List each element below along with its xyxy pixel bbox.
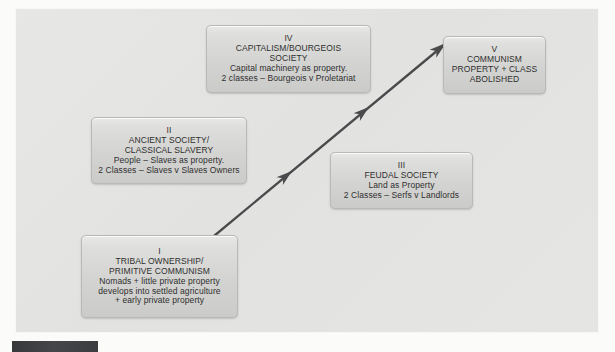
accent-bar bbox=[12, 341, 98, 352]
node-communism-title-line-3: ABOLISHED bbox=[448, 75, 541, 85]
node-feudal-numeral: III bbox=[335, 161, 468, 171]
node-ancient-society[interactable]: II ANCIENT SOCIETY/ CLASSICAL SLAVERY Pe… bbox=[91, 117, 247, 184]
node-tribal-detail-line-3: + early private property bbox=[86, 296, 233, 306]
node-ancient-numeral: II bbox=[96, 126, 242, 136]
node-ancient-detail-line-2: 2 Classes – Slaves v Slaves Owners bbox=[96, 166, 242, 176]
node-capitalism-detail-line-2: 2 classes – Bourgeois v Proletariat bbox=[211, 74, 366, 84]
node-tribal-ownership[interactable]: I TRIBAL OWNERSHIP/ PRIMITIVE COMMUNISM … bbox=[81, 235, 238, 318]
slide-root: IV CAPITALISM/BOURGEOIS SOCIETY Capital … bbox=[0, 0, 615, 352]
node-capitalism[interactable]: IV CAPITALISM/BOURGEOIS SOCIETY Capital … bbox=[206, 25, 371, 93]
node-communism[interactable]: V COMMUNISM PROPERTY + CLASS ABOLISHED bbox=[443, 36, 546, 94]
node-feudal-detail-line-2: 2 Classes – Serfs v Landlords bbox=[335, 191, 468, 201]
node-feudal-society[interactable]: III FEUDAL SOCIETY Land as Property 2 Cl… bbox=[330, 152, 473, 209]
